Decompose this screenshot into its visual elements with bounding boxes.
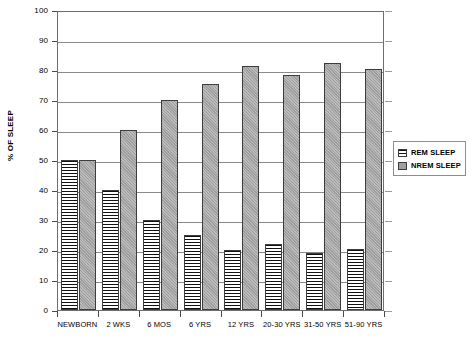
bar-nrem-sleep [283, 75, 300, 311]
bar-rem-sleep [306, 253, 323, 310]
chart-legend: REM SLEEPNREM SLEEP [393, 141, 466, 176]
y-axis-label: 90 [18, 37, 48, 45]
y-axis-tick-right [385, 191, 392, 192]
x-axis-label: 51-90 YRS [337, 320, 390, 329]
bar-nrem-sleep [161, 100, 178, 310]
x-axis-tick [139, 311, 140, 317]
x-axis-tick [57, 311, 58, 317]
plot-area [57, 11, 384, 311]
x-axis-tick [180, 311, 181, 317]
bar-nrem-sleep [365, 69, 382, 311]
bar-group [224, 12, 259, 310]
y-axis-tick-right [385, 281, 392, 282]
y-axis-label: 30 [18, 217, 48, 225]
y-axis-label: 70 [18, 97, 48, 105]
y-axis-tick-right [385, 161, 392, 162]
legend-item: REM SLEEP [398, 146, 465, 159]
bar-group [184, 12, 219, 310]
y-axis-tick-right [385, 221, 392, 222]
y-axis-label: 80 [18, 67, 48, 75]
bar-group [61, 12, 96, 310]
legend-swatch-nrem-icon [398, 162, 407, 170]
legend-swatch-rem-icon [398, 149, 407, 157]
y-axis-label: 60 [18, 127, 48, 135]
bar-nrem-sleep [202, 84, 219, 311]
bar-group [265, 12, 300, 310]
bar-rem-sleep [143, 220, 160, 310]
bar-group [347, 12, 382, 310]
y-axis-label: 50 [18, 157, 48, 165]
y-axis-tick-right [385, 41, 392, 42]
bar-nrem-sleep [79, 160, 96, 310]
bar-group [143, 12, 178, 310]
y-axis-tick-right [385, 131, 392, 132]
y-axis-label: 0 [18, 307, 48, 315]
bar-rem-sleep [347, 249, 364, 311]
bar-rem-sleep [102, 190, 119, 310]
y-axis-tick-right [385, 311, 392, 312]
bar-rem-sleep [184, 235, 201, 310]
y-axis-tick-right [385, 11, 392, 12]
legend-item-label: NREM SLEEP [411, 161, 461, 170]
y-axis-tick-right [385, 71, 392, 72]
bar-rem-sleep [224, 250, 241, 310]
legend-item-label: REM SLEEP [411, 148, 455, 157]
bar-group [102, 12, 137, 310]
legend-item: NREM SLEEP [398, 159, 465, 172]
bar-rem-sleep [61, 160, 78, 310]
x-axis-tick [221, 311, 222, 317]
bar-group [306, 12, 341, 310]
bar-nrem-sleep [120, 130, 137, 310]
bar-nrem-sleep [242, 66, 259, 311]
y-axis-label: 20 [18, 247, 48, 255]
x-axis-tick [343, 311, 344, 317]
sleep-stages-bar-chart: % OF SLEEP 1009080706050403020100 NEWBOR… [0, 0, 475, 338]
bar-nrem-sleep [324, 63, 341, 311]
y-axis-tick-right [385, 101, 392, 102]
y-axis-tick-right [385, 251, 392, 252]
y-axis-label: 100 [18, 7, 48, 15]
y-axis-title: % OF SLEEP [6, 96, 15, 176]
bar-rem-sleep [265, 244, 282, 310]
x-axis-tick [384, 311, 385, 317]
x-axis-tick [302, 311, 303, 317]
y-axis-label: 40 [18, 187, 48, 195]
y-axis-label: 10 [18, 277, 48, 285]
x-axis-tick [98, 311, 99, 317]
x-axis-tick [261, 311, 262, 317]
